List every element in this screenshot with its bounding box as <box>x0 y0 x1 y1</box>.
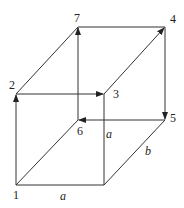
vertex-label-6: 6 <box>77 124 83 138</box>
arrow-3-4 <box>104 28 164 94</box>
edge-front-right-5 <box>104 120 165 185</box>
dimension-label-b-depth: b <box>145 144 151 158</box>
vertex-label-1: 1 <box>13 188 19 202</box>
edge-2-7 <box>16 27 78 94</box>
vertex-label-4: 4 <box>170 12 176 26</box>
vertex-label-2: 2 <box>9 78 15 92</box>
dimension-label-a-height: a <box>106 127 112 141</box>
edge-1-6 <box>16 120 78 185</box>
vertex-label-7: 7 <box>74 11 80 25</box>
vertex-label-5: 5 <box>170 111 176 125</box>
dimension-label-a-bottom: a <box>60 189 66 203</box>
vertex-label-3: 3 <box>113 87 119 101</box>
cuboid-diagram: 1 2 3 4 5 6 7 a a b <box>0 0 184 208</box>
